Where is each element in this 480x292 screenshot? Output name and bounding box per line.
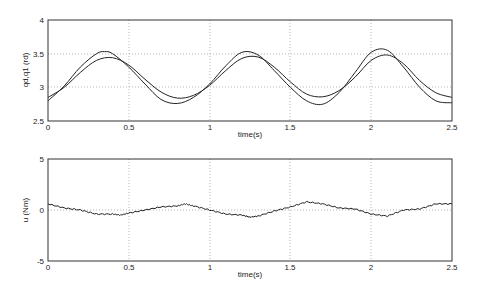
xtick: 1.5 [284,263,296,272]
figure: 4 3.5 3 2.5 0 0.5 1 1.5 2 2.5 time(s) qd… [0,0,480,292]
xtick: 1 [208,263,213,272]
xtick: 0.5 [123,263,135,272]
series-line-q1 [48,55,452,98]
ytick: 4 [40,16,45,25]
xtick: 2.5 [446,263,458,272]
top-yticks: 4 3.5 3 2.5 [33,16,45,126]
xtick: 2 [369,263,374,272]
top-grid [48,20,452,121]
top-series-lines [48,49,452,105]
top-axes-frame [48,20,452,121]
xtick: 2 [369,123,374,132]
top-plot: 4 3.5 3 2.5 0 0.5 1 1.5 2 2.5 time(s) qd… [21,16,458,139]
ytick: 5 [40,155,45,164]
top-xlabel: time(s) [238,130,263,139]
ytick: 3 [40,83,45,92]
ytick: -5 [37,257,45,266]
xtick: 1.5 [284,123,296,132]
xtick: 1 [208,123,213,132]
ytick: 3.5 [33,50,45,59]
xtick: 0.5 [123,123,135,132]
ytick: 0 [40,206,45,215]
bottom-xlabel: time(s) [238,270,263,279]
bottom-grid [48,159,452,261]
bottom-yticks: 5 0 -5 [37,155,45,266]
bottom-series-line [48,201,452,217]
series-line-u [48,201,452,217]
top-ylabel: qd,q1 (rd) [21,52,30,87]
xtick: 2.5 [446,123,458,132]
bottom-ylabel: u (Nm) [21,197,30,222]
xtick: 0 [46,263,51,272]
xtick: 0 [46,123,51,132]
bottom-plot: 5 0 -5 0 0.5 1 1.5 2 2.5 time(s) u (Nm) [21,155,458,279]
ytick: 2.5 [33,117,45,126]
